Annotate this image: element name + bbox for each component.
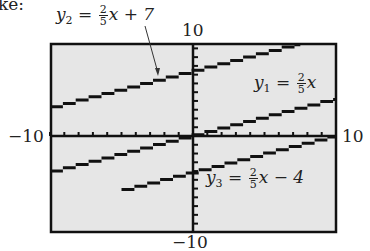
x-max-label: 10 [342, 128, 364, 145]
label-y3: y3 = 25x − 4 [206, 167, 304, 190]
label-y2: y2 = 25x + 7 [56, 4, 154, 27]
y-max-label: 10 [182, 22, 204, 39]
x-min-label: −10 [8, 128, 44, 145]
y-min-label: −10 [172, 234, 208, 251]
label-y1: y1 = 25x [254, 72, 316, 95]
